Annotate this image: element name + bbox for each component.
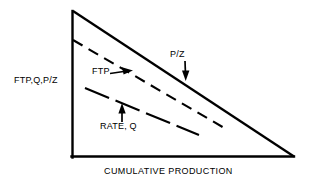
ftp-annotation-label: FTP (92, 67, 110, 76)
x-axis-label: CUMULATIVE PRODUCTION (104, 167, 233, 176)
figure-container: FTP,Q,P/Z CUMULATIVE PRODUCTION FTP P/Z … (0, 0, 311, 187)
pz-line (73, 11, 294, 157)
pz-annotation-label: P/Z (170, 50, 185, 59)
y-axis-label: FTP,Q,P/Z (14, 76, 58, 85)
rate-q-arrow-icon (118, 103, 125, 122)
plot-svg (0, 0, 311, 187)
pz-arrow-icon (182, 61, 189, 81)
rate-q-annotation-label: RATE, Q (100, 122, 137, 131)
